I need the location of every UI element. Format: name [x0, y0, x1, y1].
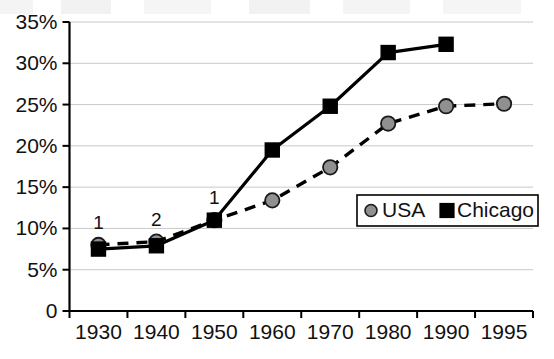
- y-axis-tick-label: 30%: [15, 51, 57, 74]
- data-point-marker: [381, 116, 395, 130]
- data-point-marker: [439, 37, 453, 51]
- data-point-marker: [323, 99, 337, 113]
- x-axis-tick-label: 1995: [481, 320, 528, 343]
- legend-circle-marker: [365, 205, 377, 217]
- y-axis-tick-label: 35%: [15, 10, 57, 33]
- point-annotation: 1: [93, 212, 104, 233]
- data-point-marker: [265, 193, 279, 207]
- line-chart: 05%10%15%20%25%30%35% 193019401950196019…: [0, 0, 554, 359]
- y-axis-tick-label: 5%: [27, 258, 57, 281]
- x-axis-tick-label: 1990: [423, 320, 470, 343]
- data-point-marker: [149, 239, 163, 253]
- x-axis-tick-label: 1970: [307, 320, 354, 343]
- data-point-marker: [381, 46, 395, 60]
- data-point-marker: [323, 160, 337, 174]
- data-point-marker: [497, 97, 511, 111]
- data-point-marker: [91, 242, 105, 256]
- data-point-marker: [439, 99, 453, 113]
- y-axis-tick-label: 15%: [15, 175, 57, 198]
- y-axis-tick-label: 0: [46, 299, 58, 322]
- point-annotation: 1: [209, 187, 220, 208]
- legend-square-marker: [440, 204, 454, 218]
- x-axis-tick-label: 1980: [365, 320, 412, 343]
- chart-legend[interactable]: USAChicago: [357, 195, 538, 226]
- y-axis-tick-label: 10%: [15, 216, 57, 239]
- data-point-marker: [207, 213, 221, 227]
- legend-label-usa[interactable]: USA: [382, 198, 425, 221]
- x-axis-tick-label: 1930: [75, 320, 122, 343]
- x-axis-tick-label: 1960: [249, 320, 296, 343]
- legend-label-chicago[interactable]: Chicago: [457, 198, 534, 221]
- point-annotation: 2: [151, 209, 162, 230]
- x-axis-tick-label: 1950: [191, 320, 238, 343]
- chart-canvas: 05%10%15%20%25%30%35% 193019401950196019…: [0, 0, 554, 359]
- data-point-marker: [265, 143, 279, 157]
- x-axis-tick-label: 1940: [133, 320, 180, 343]
- chart-background: [0, 0, 554, 359]
- y-axis-tick-label: 25%: [15, 93, 57, 116]
- y-axis-tick-label: 20%: [15, 134, 57, 157]
